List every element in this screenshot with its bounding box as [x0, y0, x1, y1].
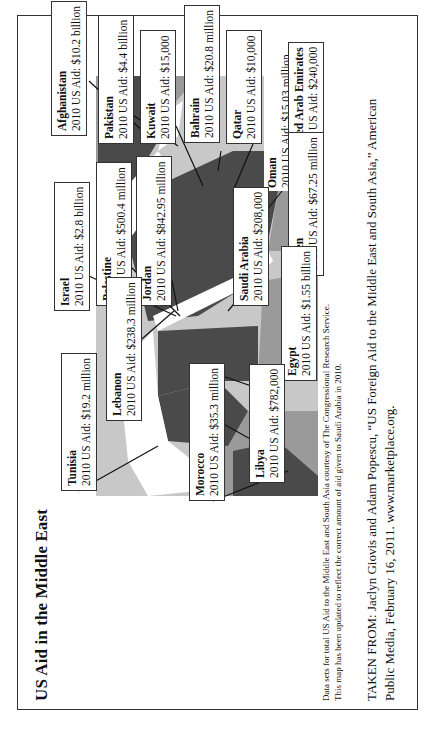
- label-lebanon: Lebanon 2010 US Aid: $238.3 million: [106, 277, 142, 421]
- label-kuwait: Kuwait 2010 US Aid: $15,000: [140, 30, 176, 144]
- aid-value: 2010 US Aid: $10.2 billion: [70, 6, 82, 131]
- aid-value: 2010 US Aid: $19.2 million: [80, 358, 92, 486]
- country-name: Kuwait: [144, 35, 158, 139]
- label-afghanistan: Afghanistan 2010 US Aid: $10.2 billion: [51, 1, 87, 136]
- label-pakistan: Pakistan 2010 US Aid: $4.4 billion: [98, 15, 134, 144]
- aid-value: 2010 US Aid: $35.3 million: [208, 368, 220, 496]
- source-line-2: Public Media, February 16, 2011. www.mar…: [381, 99, 399, 701]
- aid-value: 2010 US Aid: $842.95 million: [155, 161, 167, 301]
- label-bahrain: Bahrain 2010 US Aid: $20.8 million: [184, 5, 220, 143]
- country-name: Egypt: [285, 251, 299, 376]
- label-egypt: Egypt 2010 US Aid: $1.55 billion: [281, 246, 317, 381]
- label-qatar: Qatar 2010 US Aid: $10,000: [226, 30, 262, 144]
- aid-value: 2010 US Aid: $20.8 million: [203, 10, 215, 138]
- country-name: Tunisia: [65, 358, 79, 486]
- country-name: Pakistan: [102, 20, 116, 139]
- label-libya: Libya 2010 US Aid: $782,000: [249, 364, 285, 483]
- country-name: Bahrain: [188, 10, 202, 138]
- country-name: Saudi Arabia: [237, 192, 251, 301]
- footnote-line-1: Data sets for total US Aid to the Middle…: [320, 304, 332, 701]
- aid-value: 2010 US Aid: $208,000: [252, 192, 264, 301]
- figure-frame: US Aid in the Middle East Afghanistan 20…: [17, 15, 418, 710]
- aid-value: 2010 US Aid: $782,000: [268, 369, 280, 478]
- country-name: Libya: [253, 369, 267, 478]
- country-name: Afghanistan: [55, 6, 69, 131]
- footnote: Data sets for total US Aid to the Middle…: [320, 304, 344, 701]
- label-saudi-arabia: Saudi Arabia 2010 US Aid: $208,000: [233, 187, 269, 306]
- map-title: US Aid in the Middle East: [32, 509, 52, 701]
- country-name: Morocco: [193, 368, 207, 496]
- country-name: Oman: [265, 54, 279, 188]
- label-israel: Israel 2010 US Aid: $2.8 billion: [54, 182, 90, 311]
- label-morocco: Morocco 2010 US Aid: $35.3 million: [189, 363, 225, 501]
- rotated-figure: US Aid in the Middle East Afghanistan 20…: [18, 16, 419, 711]
- aid-value: 2010 US Aid: $10,000: [245, 35, 257, 139]
- source-line-1: TAKEN FROM: Jaclyn Giovis and Adam Popes…: [363, 99, 381, 701]
- footnote-line-2: This map has been updated to reflect the…: [332, 304, 344, 701]
- country-name: Jordan: [140, 161, 154, 301]
- source-citation: TAKEN FROM: Jaclyn Giovis and Adam Popes…: [363, 99, 399, 701]
- label-tunisia: Tunisia 2010 US Aid: $19.2 million: [61, 353, 97, 491]
- country-name: Lebanon: [110, 282, 124, 416]
- aid-value: 2010 US Aid: $238.3 million: [125, 282, 137, 416]
- aid-value: 2010 US Aid: $1.55 billion: [300, 251, 312, 376]
- country-name: Qatar: [230, 35, 244, 139]
- aid-value: 2010 US Aid: $2.8 billion: [73, 187, 85, 306]
- aid-value: 2010 US Aid: $15,000: [159, 35, 171, 139]
- country-name: Israel: [58, 187, 72, 306]
- aid-value: 2010 US Aid: $4.4 billion: [117, 20, 129, 139]
